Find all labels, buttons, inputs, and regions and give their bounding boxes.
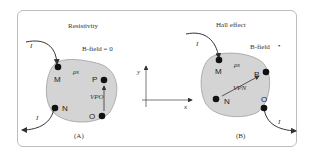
- contact-a-m: M: [54, 75, 61, 84]
- panel-a-rho: ρs: [73, 68, 79, 76]
- panel-b-title: Hall effect: [216, 21, 246, 29]
- panel-b-current-out: I: [278, 118, 280, 126]
- contact-a-n: N: [62, 104, 68, 113]
- contact-b-o: O: [261, 95, 267, 104]
- axis-y-label: y: [137, 68, 140, 76]
- b-field-out-of-page-icon: •: [278, 42, 280, 50]
- diagram-graphics: [0, 0, 318, 155]
- contact-a-p: P: [92, 75, 97, 84]
- contact-a-o: O: [89, 112, 95, 121]
- axis-x-label: x: [184, 103, 187, 111]
- panel-b-caption: (B): [236, 132, 245, 140]
- panel-a-caption: (A): [74, 132, 84, 140]
- panel-b-voltage: VPN: [233, 84, 246, 92]
- contact-b-n: N: [224, 97, 230, 106]
- panel-a-title: Resistivity: [68, 22, 98, 30]
- panel-b-current-in: I: [196, 40, 198, 48]
- panel-b-field-label: B-field: [250, 43, 270, 51]
- panel-a-current-in: I: [30, 42, 32, 50]
- panel-b-rho: ρs: [234, 61, 240, 69]
- panel-a-voltage: VPO: [90, 93, 104, 101]
- panel-a-field-label: B-field = 0: [82, 45, 113, 53]
- contact-b-m: M: [215, 67, 222, 76]
- panel-a-current-out: I: [36, 114, 38, 122]
- contact-b-p: P: [254, 70, 259, 79]
